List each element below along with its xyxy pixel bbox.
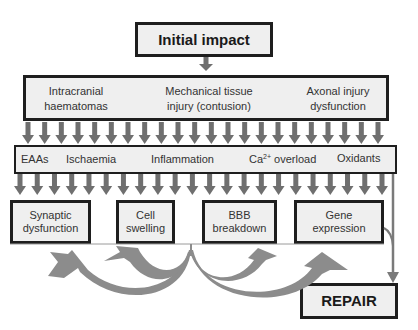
connectors-overlay bbox=[0, 0, 418, 330]
repair-arrow-icon bbox=[384, 174, 399, 283]
arrow-row-2-icon bbox=[14, 174, 388, 195]
arrow-row-1-icon bbox=[22, 122, 384, 144]
feedback-curves-icon bbox=[48, 244, 348, 298]
initial-down-arrow-icon bbox=[199, 57, 213, 71]
